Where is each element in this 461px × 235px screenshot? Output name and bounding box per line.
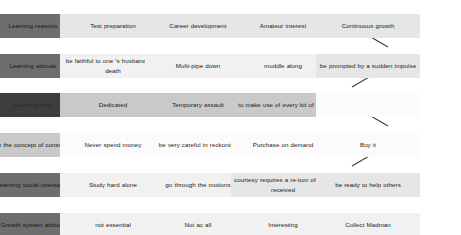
cell-r2-c5-be-prompted-by-a-sudden-impulse-text: be prompted by a sudden impulse — [319, 61, 417, 71]
cell-r1-c5-continuous-growth: Continuous growth — [316, 14, 420, 38]
cell-r3-c5-empty — [316, 93, 420, 117]
matrix-diagram: Learning reasonsTest preparationCareer d… — [0, 0, 461, 235]
cell-r6-c5-collect-madman: Collect Madman — [316, 213, 420, 235]
cell-r5-c5-be-ready-to-help-others-text: be ready to help others — [319, 180, 417, 190]
cell-r5-c5-be-ready-to-help-others: be ready to help others — [316, 173, 420, 197]
cell-r1-c5-continuous-growth-text: Continuous growth — [319, 21, 417, 31]
cell-r2-c5-be-prompted-by-a-sudden-impulse: be prompted by a sudden impulse — [316, 54, 420, 78]
cell-r4-c5-buy-it-text: Buy it — [319, 140, 417, 150]
cell-r6-c5-collect-madman-text: Collect Madman — [319, 220, 417, 230]
cell-r4-c5-buy-it: Buy it — [316, 133, 420, 157]
